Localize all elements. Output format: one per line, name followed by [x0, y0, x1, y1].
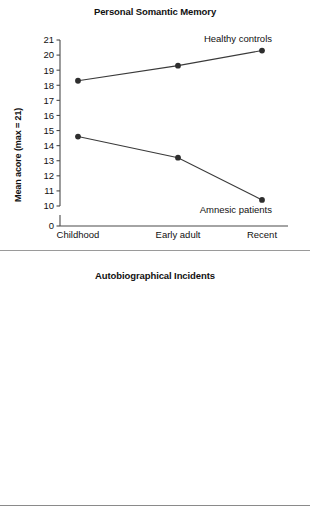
y-tick-label: 15: [43, 125, 54, 136]
y-tick-label: 16: [43, 110, 54, 121]
chart-2-plot-area: 9876540ChildhoodEarly adultRecentHealthy…: [0, 256, 310, 513]
y-tick-label: 10: [43, 200, 54, 211]
y-tick-label: 20: [43, 49, 54, 60]
figure-divider-rule: [0, 250, 310, 251]
series-label-healthy-controls: Healthy controls: [204, 33, 272, 44]
y-tick-label: 14: [43, 140, 54, 151]
chart-personal-somantic-memory: Personal Somantic Memory Mean acore (max…: [0, 0, 310, 252]
y-tick-label: 13: [43, 155, 54, 166]
data-point-amnesic-patients: [175, 155, 181, 161]
data-point-amnesic-patients: [75, 134, 81, 140]
y-tick-label: 17: [43, 95, 54, 106]
data-point-healthy-controls: [259, 48, 265, 54]
y-tick-label: 19: [43, 65, 54, 76]
series-line-amnesic-patients: [78, 137, 262, 200]
y-tick-label: 18: [43, 80, 54, 91]
y-tick-label: 21: [43, 34, 54, 45]
page-bottom-rule: [0, 505, 310, 506]
chart-1-plot-area: 2120191817161514131211100ChildhoodEarly …: [0, 0, 310, 252]
chart-autobiographical-incidents: Autobiographical Incidents Mean acore (m…: [0, 256, 310, 513]
x-tick-label: Recent: [247, 229, 277, 240]
y-tick-label: 11: [44, 185, 54, 196]
y-tick-label: 0: [49, 220, 54, 231]
series-line-healthy-controls: [78, 51, 262, 81]
y-tick-label: 12: [43, 170, 54, 181]
series-label-amnesic-patients: Amnesic patients: [200, 204, 273, 215]
data-point-amnesic-patients: [259, 197, 265, 203]
x-tick-label: Early adult: [156, 229, 201, 240]
data-point-healthy-controls: [75, 78, 81, 84]
data-point-healthy-controls: [175, 63, 181, 69]
x-tick-label: Childhood: [57, 229, 100, 240]
